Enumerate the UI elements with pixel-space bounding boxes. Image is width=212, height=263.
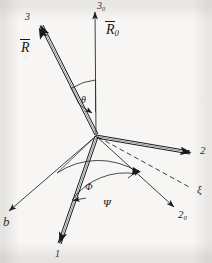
arc-theta (72, 80, 96, 88)
axis-1-0-line (9, 136, 96, 211)
diagram-svg (0, 0, 212, 263)
axis-3-0-label: 30 (97, 1, 105, 12)
angle-theta-label: θ (81, 95, 86, 105)
arc-theta-leg (70, 86, 79, 104)
axis-3-label: 3 (25, 12, 30, 22)
axis-1-label: 1 (55, 249, 60, 259)
axis-1-0-label: b (3, 215, 10, 228)
axis-3-line (39, 25, 98, 135)
angle-psi-label: Ψ (103, 198, 111, 209)
figure-canvas: 30 R0 3 R θ 2 ξ 20 Φ Ψ b 1 (0, 0, 212, 263)
vector-R0-label: R0 (106, 23, 119, 38)
axis-3-0-line (95, 12, 96, 136)
axis-2-0-label: 20 (178, 209, 187, 222)
angle-phi-label: Φ (85, 182, 93, 192)
axis-xi-label: ξ (197, 184, 202, 195)
arc-phi (57, 160, 138, 173)
arc-psi (72, 173, 137, 200)
axis-2-label: 2 (200, 145, 206, 156)
vector-R-label: R (21, 41, 30, 55)
axis-2-line (96, 135, 191, 154)
